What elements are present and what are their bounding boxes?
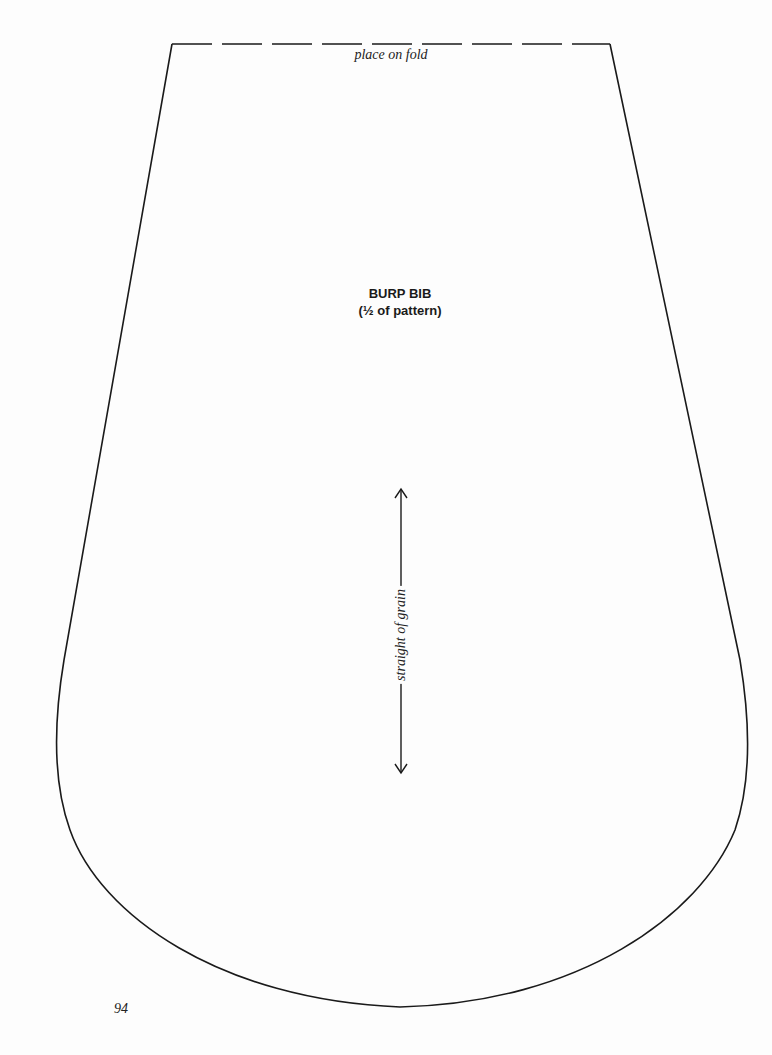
page-number: 94	[114, 1001, 128, 1017]
pattern-subtitle: (½ of pattern)	[0, 302, 772, 319]
cutting-line	[56, 44, 747, 1007]
pattern-title: BURP BIB	[0, 285, 772, 302]
pattern-page: place on fold BURP BIB (½ of pattern) st…	[0, 0, 772, 1055]
bib-outline	[0, 0, 772, 1055]
pattern-title-block: BURP BIB (½ of pattern)	[0, 285, 772, 319]
grainline-label: straight of grain	[393, 586, 409, 684]
fold-label: place on fold	[0, 47, 772, 63]
